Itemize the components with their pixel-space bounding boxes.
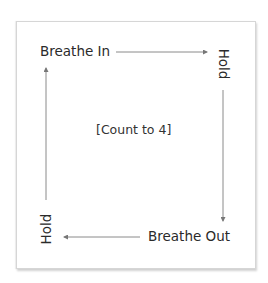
step-breathe-in: Breathe In	[40, 43, 110, 59]
center-instruction: [Count to 4]	[96, 122, 171, 137]
step-hold-right: Hold	[216, 47, 232, 81]
step-hold-left: Hold	[38, 212, 54, 246]
step-breathe-out: Breathe Out	[148, 228, 230, 244]
